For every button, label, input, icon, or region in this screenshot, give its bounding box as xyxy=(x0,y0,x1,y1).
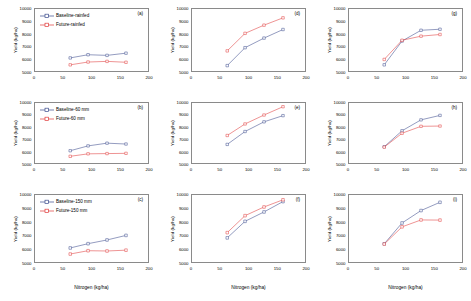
plot-area: Yield (kg/ha)500060007000800090001000005… xyxy=(348,194,463,263)
data-point-marker xyxy=(87,61,90,63)
data-point-marker xyxy=(401,222,404,225)
y-axis-tick: 9000 xyxy=(336,205,346,210)
series-baseline-60-mm xyxy=(383,114,441,148)
x-axis-tick: 0 xyxy=(33,266,35,271)
x-axis-tick: 200 xyxy=(145,75,152,80)
y-axis-label: Yield (kg/ha) xyxy=(13,27,18,53)
data-point-marker xyxy=(226,143,229,145)
data-point-marker xyxy=(420,29,423,31)
x-axis-tick: 50 xyxy=(60,75,65,80)
y-axis-tick: 8000 xyxy=(336,219,346,224)
data-point-marker xyxy=(263,211,266,214)
x-axis-tick: 50 xyxy=(374,75,379,80)
data-point-marker xyxy=(263,206,266,209)
x-axis-tick: 150 xyxy=(431,75,438,80)
data-point-marker xyxy=(439,33,442,35)
data-point-marker xyxy=(106,239,109,242)
x-axis-label: Nitrogen (kg/ha) xyxy=(74,285,108,290)
y-axis-tick: 7000 xyxy=(22,44,32,49)
data-point-marker xyxy=(263,114,266,116)
data-point-marker xyxy=(383,58,386,60)
data-point-marker xyxy=(282,198,285,201)
series-future-60-mm xyxy=(383,125,441,148)
data-point-marker xyxy=(439,201,442,204)
series-line xyxy=(384,34,440,59)
series-future-rainfed xyxy=(69,60,127,66)
data-point-marker xyxy=(401,226,404,229)
data-point-marker xyxy=(282,28,285,30)
series-canvas xyxy=(34,102,149,164)
data-point-marker xyxy=(226,64,229,66)
y-axis-tick: 8000 xyxy=(179,219,189,224)
x-axis-tick: 150 xyxy=(431,167,438,172)
x-axis-tick: 200 xyxy=(459,167,466,172)
y-axis-label: Yield (kg/ha) xyxy=(13,120,18,146)
series-baseline-60-mm xyxy=(69,142,127,152)
x-axis-label: Nitrogen (kg/ha) xyxy=(231,285,265,290)
y-axis-tick: 9000 xyxy=(179,205,189,210)
x-axis-tick: 0 xyxy=(190,75,192,80)
series-line xyxy=(70,53,126,58)
data-point-marker xyxy=(439,114,442,116)
y-axis-tick: 7000 xyxy=(22,137,32,142)
data-point-marker xyxy=(125,143,128,145)
plot-area: Yield (kg/ha)500060007000800090001000005… xyxy=(348,8,463,72)
series-canvas xyxy=(348,194,463,263)
series-line xyxy=(384,115,440,146)
y-axis-tick: 8000 xyxy=(336,31,346,36)
y-axis-tick: 9000 xyxy=(22,112,32,117)
series-line xyxy=(227,202,283,238)
series-line xyxy=(227,107,283,136)
plot-area: Yield (kg/ha)500060007000800090001000005… xyxy=(191,194,306,263)
x-axis-tick: 50 xyxy=(217,75,222,80)
data-point-marker xyxy=(106,142,109,144)
data-point-marker xyxy=(439,219,442,222)
y-axis-label: Yield (kg/ha) xyxy=(170,27,175,53)
y-axis-tick: 10000 xyxy=(334,6,346,11)
series-canvas xyxy=(191,194,306,263)
y-axis-tick: 6000 xyxy=(336,57,346,62)
data-point-marker xyxy=(383,243,386,246)
chart-panel-e: Yield (kg/ha)500060007000800090001000005… xyxy=(157,94,314,186)
x-axis-tick: 150 xyxy=(274,167,281,172)
data-point-marker xyxy=(420,35,423,37)
y-axis-label: Yield (kg/ha) xyxy=(170,120,175,146)
x-axis-tick: 100 xyxy=(88,75,95,80)
x-axis-tick: 200 xyxy=(302,167,309,172)
y-axis-tick: 6000 xyxy=(179,149,189,154)
y-axis-tick: 8000 xyxy=(22,219,32,224)
series-future-rainfed xyxy=(383,33,441,60)
y-axis-tick: 9000 xyxy=(179,112,189,117)
y-axis-tick: 10000 xyxy=(177,100,189,105)
y-axis-tick: 5000 xyxy=(336,261,346,266)
y-axis-tick: 6000 xyxy=(179,57,189,62)
x-axis-tick: 50 xyxy=(374,167,379,172)
chart-panel-c: Yield (kg/ha)500060007000800090001000005… xyxy=(0,186,157,301)
y-axis-label: Yield (kg/ha) xyxy=(327,27,332,53)
x-axis-tick: 0 xyxy=(190,266,192,271)
data-point-marker xyxy=(226,50,229,52)
series-canvas xyxy=(348,102,463,164)
y-axis-tick: 10000 xyxy=(334,192,346,197)
series-baseline-rainfed xyxy=(383,28,441,66)
x-axis-tick: 200 xyxy=(302,266,309,271)
y-axis-tick: 5000 xyxy=(22,70,32,75)
chart-panel-g: Yield (kg/ha)500060007000800090001000005… xyxy=(314,0,471,94)
series-baseline-rainfed xyxy=(226,28,284,67)
x-axis-tick: 0 xyxy=(33,167,35,172)
data-point-marker xyxy=(282,17,285,19)
series-line xyxy=(70,153,126,156)
y-axis-tick: 8000 xyxy=(179,31,189,36)
chart-panel-d: Yield (kg/ha)500060007000800090001000005… xyxy=(157,0,314,94)
x-axis-tick: 0 xyxy=(347,167,349,172)
data-point-marker xyxy=(401,132,404,134)
data-point-marker xyxy=(439,125,442,127)
data-point-marker xyxy=(263,24,266,26)
plot-area: Yield (kg/ha)500060007000800090001000005… xyxy=(34,8,149,72)
plot-area: Yield (kg/ha)500060007000800090001000005… xyxy=(34,194,149,263)
figure-panel-grid: Yield (kg/ha)500060007000800090001000005… xyxy=(0,0,471,301)
data-point-marker xyxy=(420,219,423,222)
x-axis-tick: 150 xyxy=(117,75,124,80)
series-baseline-150-mm xyxy=(69,234,127,249)
data-point-marker xyxy=(282,114,285,116)
